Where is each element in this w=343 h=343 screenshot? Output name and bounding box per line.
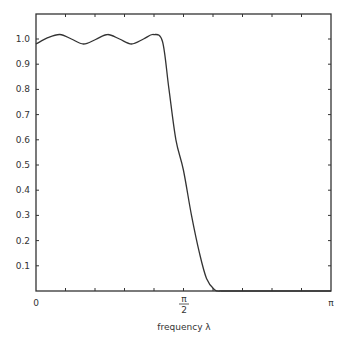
y-tick-label: 0.9: [16, 59, 31, 69]
x-tick-label-pi: π: [328, 298, 334, 308]
response-curve: [36, 34, 331, 291]
x-tick-label-half-pi-numerator: π: [181, 294, 187, 304]
y-tick-label: 1.0: [16, 34, 31, 44]
y-tick-label: 0.3: [16, 210, 30, 220]
chart-canvas: 0.10.20.30.40.50.60.70.80.91.0 0 π 2 π f…: [0, 0, 343, 343]
y-tick-label: 0.4: [16, 185, 31, 195]
y-tick-label: 0.7: [16, 110, 30, 120]
y-tick-label: 0.1: [16, 261, 30, 271]
x-tick-label-zero: 0: [33, 298, 39, 308]
y-axis-ticks: 0.10.20.30.40.50.60.70.80.91.0: [16, 34, 331, 271]
x-tick-label-half-pi-denominator: 2: [181, 305, 187, 315]
y-tick-label: 0.6: [16, 135, 31, 145]
y-tick-label: 0.8: [16, 84, 31, 94]
y-tick-label: 0.2: [16, 236, 30, 246]
x-axis-ticks: [66, 14, 302, 291]
y-tick-label: 0.5: [16, 160, 30, 170]
x-axis-title: frequency λ: [157, 322, 211, 332]
plot-frame: [36, 14, 331, 291]
